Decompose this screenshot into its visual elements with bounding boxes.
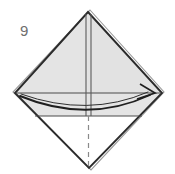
middle-band-shape	[15, 93, 162, 116]
step-number-label: 9	[20, 22, 28, 39]
diagram-canvas: 9	[0, 0, 175, 174]
origami-step-diagram: 9	[0, 0, 175, 174]
